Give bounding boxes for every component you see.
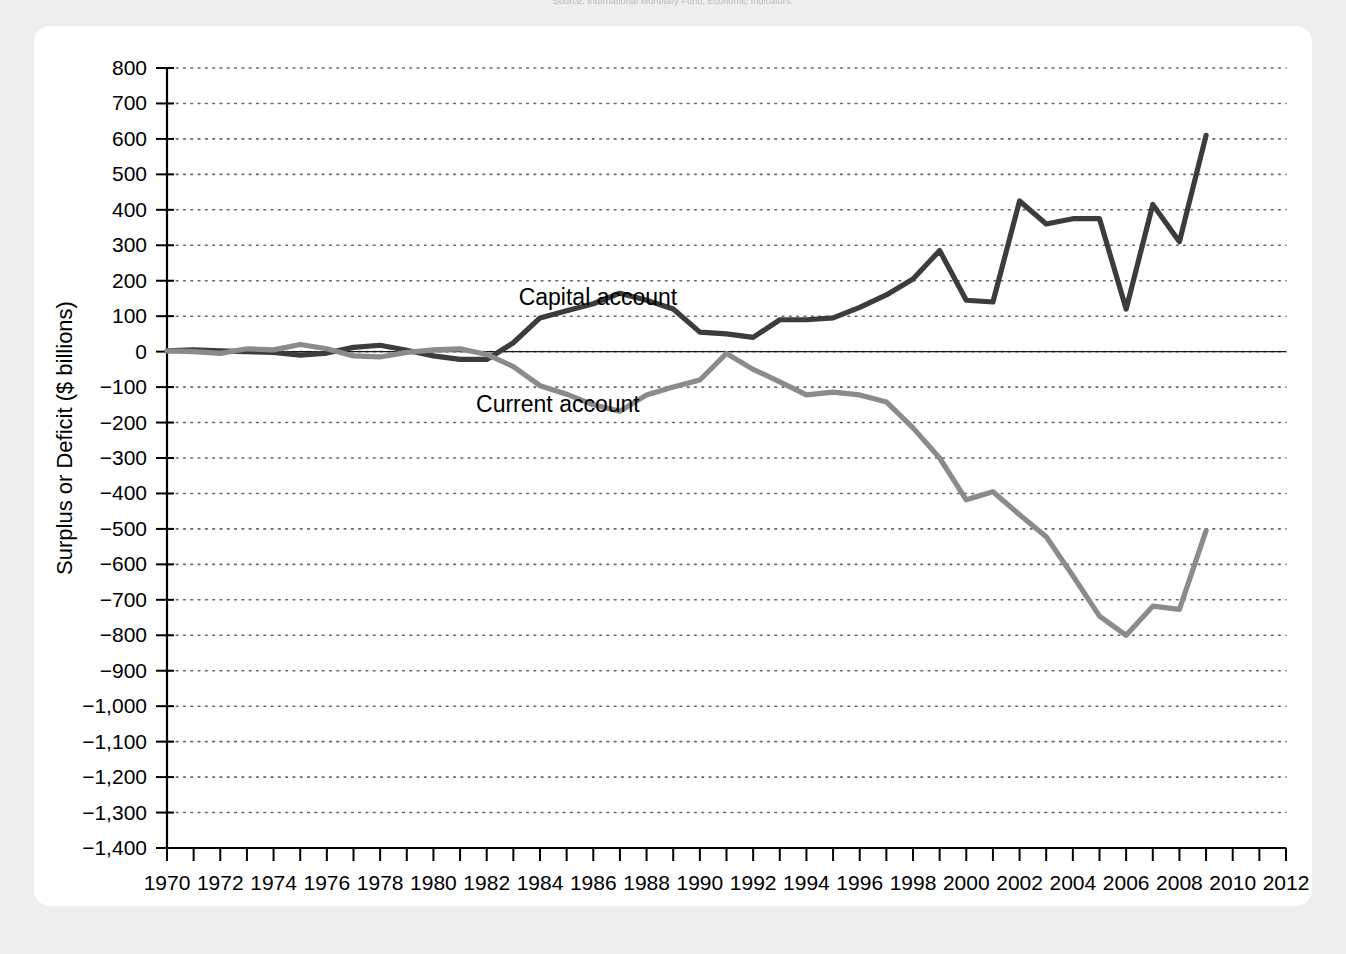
x-tick-label: 1978 <box>357 871 404 894</box>
y-tick-label: −1,400 <box>82 836 147 859</box>
source-note: Source: International Monetary Fund, Eco… <box>0 0 1346 8</box>
chart-page: Source: International Monetary Fund, Eco… <box>0 0 1346 954</box>
x-axis-ticks: 1970197219741976197819801982198419861988… <box>144 848 1310 894</box>
y-tick-label: −500 <box>100 517 147 540</box>
y-tick-label: −1,300 <box>82 801 147 824</box>
y-tick-label: −700 <box>100 588 147 611</box>
x-tick-label: 1970 <box>144 871 191 894</box>
x-tick-label: 1976 <box>303 871 350 894</box>
x-tick-label: 1980 <box>410 871 457 894</box>
x-tick-label: 1990 <box>676 871 723 894</box>
x-tick-label: 1972 <box>197 871 244 894</box>
y-tick-label: −400 <box>100 481 147 504</box>
y-tick-label: 100 <box>112 304 147 327</box>
x-tick-label: 2004 <box>1049 871 1096 894</box>
y-tick-label: 0 <box>135 340 147 363</box>
y-axis-title: Surplus or Deficit ($ billions) <box>52 301 77 575</box>
x-tick-label: 1998 <box>890 871 937 894</box>
x-tick-label: 2010 <box>1209 871 1256 894</box>
chart-card: 8007006005004003002001000−100−200−300−40… <box>34 26 1312 906</box>
y-axis-ticks: 8007006005004003002001000−100−200−300−40… <box>82 56 174 859</box>
series-line-current-account <box>167 345 1206 636</box>
y-tick-label: −600 <box>100 552 147 575</box>
x-tick-label: 2008 <box>1156 871 1203 894</box>
y-tick-label: 800 <box>112 56 147 79</box>
y-tick-label: 400 <box>112 198 147 221</box>
x-tick-label: 2000 <box>943 871 990 894</box>
x-tick-label: 1992 <box>730 871 777 894</box>
x-tick-label: 1984 <box>517 871 564 894</box>
x-tick-label: 1988 <box>623 871 670 894</box>
y-tick-label: −800 <box>100 623 147 646</box>
y-tick-label: 600 <box>112 127 147 150</box>
y-tick-label: −1,100 <box>82 730 147 753</box>
series-line-capital-account <box>167 135 1206 359</box>
y-tick-label: 200 <box>112 269 147 292</box>
x-tick-label: 2012 <box>1263 871 1310 894</box>
y-tick-label: −900 <box>100 659 147 682</box>
series-label-current-account: Current account <box>476 391 640 417</box>
x-tick-label: 1986 <box>570 871 617 894</box>
y-tick-label: −300 <box>100 446 147 469</box>
x-tick-label: 2006 <box>1103 871 1150 894</box>
x-tick-label: 1982 <box>463 871 510 894</box>
y-tick-label: −1,000 <box>82 694 147 717</box>
y-tick-label: −1,200 <box>82 765 147 788</box>
y-tick-label: −200 <box>100 411 147 434</box>
y-tick-label: −100 <box>100 375 147 398</box>
y-tick-label: 300 <box>112 233 147 256</box>
plot-area: 8007006005004003002001000−100−200−300−40… <box>34 26 1312 906</box>
x-tick-label: 1974 <box>250 871 297 894</box>
series-label-capital-account: Capital account <box>519 284 678 310</box>
x-tick-label: 1996 <box>836 871 883 894</box>
y-tick-label: 500 <box>112 162 147 185</box>
x-tick-label: 1994 <box>783 871 830 894</box>
line-chart: 8007006005004003002001000−100−200−300−40… <box>34 26 1312 906</box>
x-tick-label: 2002 <box>996 871 1043 894</box>
gridlines <box>169 68 1286 848</box>
y-tick-label: 700 <box>112 91 147 114</box>
